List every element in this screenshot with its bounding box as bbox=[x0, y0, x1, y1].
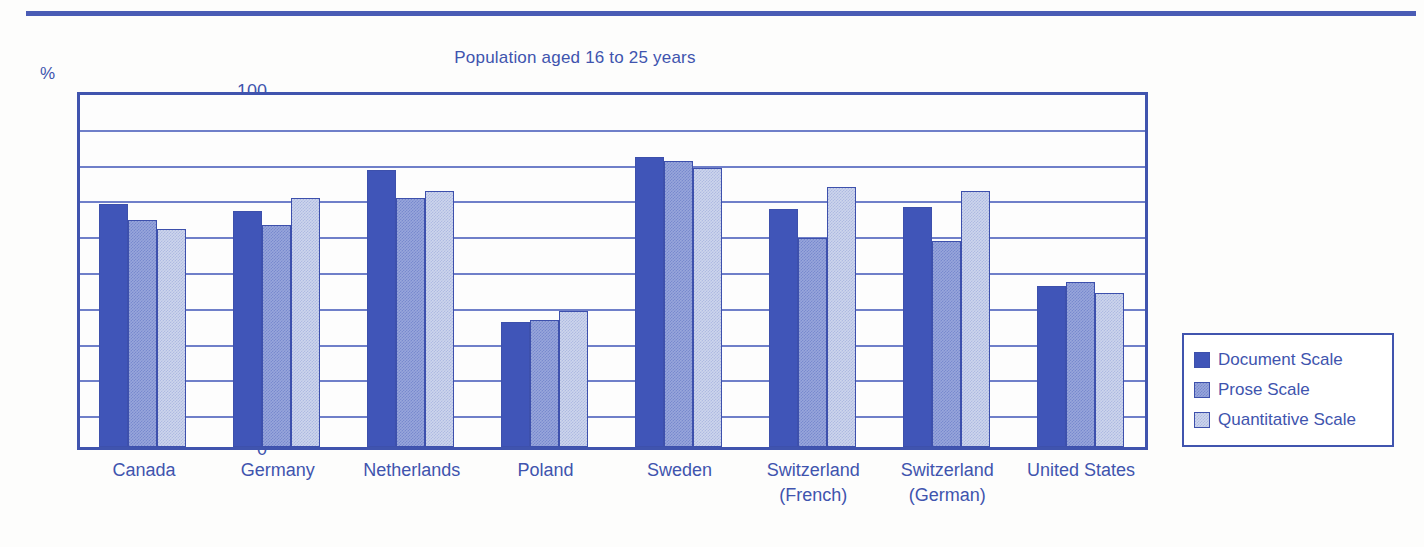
legend-swatch-icon bbox=[1194, 382, 1210, 398]
top-divider-rule bbox=[26, 11, 1416, 16]
bar bbox=[262, 225, 291, 447]
chart-legend: Document ScaleProse ScaleQuantitative Sc… bbox=[1182, 333, 1394, 447]
bar bbox=[425, 191, 454, 447]
bar bbox=[693, 168, 722, 447]
bar bbox=[559, 311, 588, 447]
bar bbox=[99, 204, 128, 447]
bar bbox=[1066, 282, 1095, 447]
plot-inner bbox=[80, 95, 1145, 447]
bar bbox=[961, 191, 990, 447]
x-axis-tick-label-line: (German) bbox=[860, 483, 1034, 508]
bar bbox=[798, 238, 827, 447]
legend-item[interactable]: Document Scale bbox=[1194, 345, 1384, 375]
bar bbox=[932, 241, 961, 447]
legend-label: Quantitative Scale bbox=[1218, 410, 1356, 430]
bar-group bbox=[99, 95, 186, 447]
bar-group bbox=[233, 95, 320, 447]
chart-title: Population aged 16 to 25 years bbox=[0, 48, 1150, 68]
bar bbox=[396, 198, 425, 447]
bar-group bbox=[635, 95, 722, 447]
legend-label: Document Scale bbox=[1218, 350, 1343, 370]
bar-group bbox=[367, 95, 454, 447]
legend-swatch-icon bbox=[1194, 412, 1210, 428]
bar bbox=[1037, 286, 1066, 447]
bar bbox=[827, 187, 856, 447]
bar bbox=[291, 198, 320, 447]
legend-label: Prose Scale bbox=[1218, 380, 1310, 400]
legend-swatch-icon bbox=[1194, 352, 1210, 368]
y-axis-unit-label: % bbox=[40, 64, 55, 84]
chart-page: Population aged 16 to 25 years % 0102030… bbox=[0, 0, 1424, 547]
plot-area bbox=[77, 92, 1148, 450]
bar-group bbox=[769, 95, 856, 447]
bar bbox=[501, 322, 530, 447]
bar bbox=[157, 229, 186, 447]
legend-item[interactable]: Quantitative Scale bbox=[1194, 405, 1384, 435]
bar bbox=[367, 170, 396, 447]
bar bbox=[1095, 293, 1124, 447]
legend-item[interactable]: Prose Scale bbox=[1194, 375, 1384, 405]
bar bbox=[530, 320, 559, 447]
bar bbox=[769, 209, 798, 447]
bar bbox=[903, 207, 932, 447]
bar bbox=[233, 211, 262, 447]
bar bbox=[635, 157, 664, 447]
bar-group bbox=[1037, 95, 1124, 447]
bar-group bbox=[501, 95, 588, 447]
bar-group bbox=[903, 95, 990, 447]
x-axis-tick-label: United States bbox=[994, 458, 1168, 483]
x-axis-tick-label-line: United States bbox=[994, 458, 1168, 483]
bar bbox=[664, 161, 693, 447]
bar bbox=[128, 220, 157, 447]
